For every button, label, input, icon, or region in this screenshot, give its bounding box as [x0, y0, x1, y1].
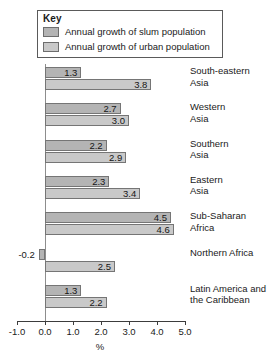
- bar-urban: 2.9: [45, 152, 126, 163]
- region-label: Northern Africa: [190, 247, 253, 259]
- x-axis-tick: [157, 321, 158, 325]
- bar-urban: 2.2: [45, 297, 107, 308]
- bar-value-label: 2.3: [92, 176, 105, 188]
- region-label-line: Africa: [190, 222, 246, 234]
- x-axis-tick-label: 3.0: [114, 326, 144, 337]
- bar-urban: 3.4: [45, 188, 140, 199]
- bar-group: 1.32.2Latin America andthe Caribbean: [0, 284, 270, 316]
- legend-title: Key: [43, 13, 62, 24]
- bar-group: 4.54.6Sub-SaharanAfrica: [0, 211, 270, 243]
- slum-urban-growth-chart: Key Annual growth of slum population Ann…: [0, 0, 270, 359]
- bar-value-label: -0.2: [18, 249, 34, 261]
- bar-value-label: 2.7: [103, 103, 116, 115]
- x-axis-tick-label: 5.0: [170, 326, 200, 337]
- region-label-line: Sub-Saharan: [190, 210, 246, 222]
- bar-value-label: 4.6: [157, 224, 170, 236]
- bar-value-label: 2.5: [98, 261, 111, 273]
- bar-group: -0.22.5Northern Africa: [0, 248, 270, 280]
- bar-slum: 2.2: [45, 140, 107, 151]
- bar-slum: -0.2: [39, 249, 45, 260]
- x-axis-tick-label: 0.0: [30, 326, 60, 337]
- x-axis-tick: [101, 321, 102, 325]
- bar-slum: 1.3: [45, 67, 81, 78]
- chart-legend: Key Annual growth of slum population Ann…: [37, 10, 223, 58]
- region-label-line: Asia: [190, 113, 225, 125]
- bar-urban: 3.8: [45, 79, 151, 90]
- x-axis-tick-label: 2.0: [86, 326, 116, 337]
- bar-value-label: 3.8: [134, 79, 147, 91]
- bar-value-label: 2.9: [109, 152, 122, 164]
- region-label-line: the Caribbean: [190, 294, 266, 306]
- bar-group: 1.33.8South-easternAsia: [0, 66, 270, 98]
- bar-group: 2.33.4EasternAsia: [0, 175, 270, 207]
- region-label-line: Asia: [190, 185, 223, 197]
- bar-group: 2.22.9SouthernAsia: [0, 139, 270, 171]
- x-axis-tick-label: -1.0: [2, 326, 32, 337]
- x-axis-tick: [73, 321, 74, 325]
- plot-area: 1.33.8South-easternAsia2.73.0WesternAsia…: [0, 64, 270, 326]
- region-label-line: Western: [190, 101, 225, 113]
- region-label-line: Latin America and: [190, 283, 266, 295]
- bar-value-label: 3.4: [123, 188, 136, 200]
- bar-slum: 1.3: [45, 285, 81, 296]
- region-label: SouthernAsia: [190, 138, 229, 161]
- x-axis-tick: [45, 321, 46, 325]
- x-axis-tick-label: 4.0: [142, 326, 172, 337]
- x-axis-tick: [17, 321, 18, 325]
- region-label: EasternAsia: [190, 174, 223, 197]
- bar-value-label: 1.3: [64, 285, 77, 297]
- bar-value-label: 4.5: [154, 212, 167, 224]
- region-label-line: Eastern: [190, 174, 223, 186]
- bar-value-label: 2.2: [89, 140, 102, 152]
- x-axis-tick: [185, 321, 186, 325]
- legend-entry-label: Annual growth of slum population: [65, 27, 205, 37]
- region-label-line: South-eastern: [190, 65, 250, 77]
- region-label: WesternAsia: [190, 101, 225, 124]
- bar-value-label: 2.2: [89, 297, 102, 309]
- bar-value-label: 1.3: [64, 67, 77, 79]
- bar-group: 2.73.0WesternAsia: [0, 102, 270, 134]
- x-axis-title: %: [0, 341, 200, 352]
- bar-urban: 4.6: [45, 224, 174, 235]
- bar-urban: 2.5: [45, 261, 115, 272]
- legend-entry-urban: Annual growth of urban population: [43, 41, 210, 53]
- region-label: South-easternAsia: [190, 65, 250, 88]
- region-label-line: Southern: [190, 138, 229, 150]
- bar-urban: 3.0: [45, 115, 129, 126]
- region-label-line: Asia: [190, 77, 250, 89]
- legend-entry-slum: Annual growth of slum population: [43, 26, 205, 38]
- bar-slum: 2.3: [45, 176, 109, 187]
- legend-swatch-icon: [43, 42, 59, 52]
- bar-slum: 4.5: [45, 212, 171, 223]
- region-label: Sub-SaharanAfrica: [190, 210, 246, 233]
- legend-entry-label: Annual growth of urban population: [65, 42, 210, 52]
- region-label-line: Asia: [190, 149, 229, 161]
- region-label: Latin America andthe Caribbean: [190, 283, 266, 306]
- x-axis-tick: [129, 321, 130, 325]
- bar-slum: 2.7: [45, 103, 121, 114]
- bar-value-label: 3.0: [112, 115, 125, 127]
- region-label-line: Northern Africa: [190, 247, 253, 259]
- legend-swatch-icon: [43, 27, 59, 37]
- x-axis-tick-label: 1.0: [58, 326, 88, 337]
